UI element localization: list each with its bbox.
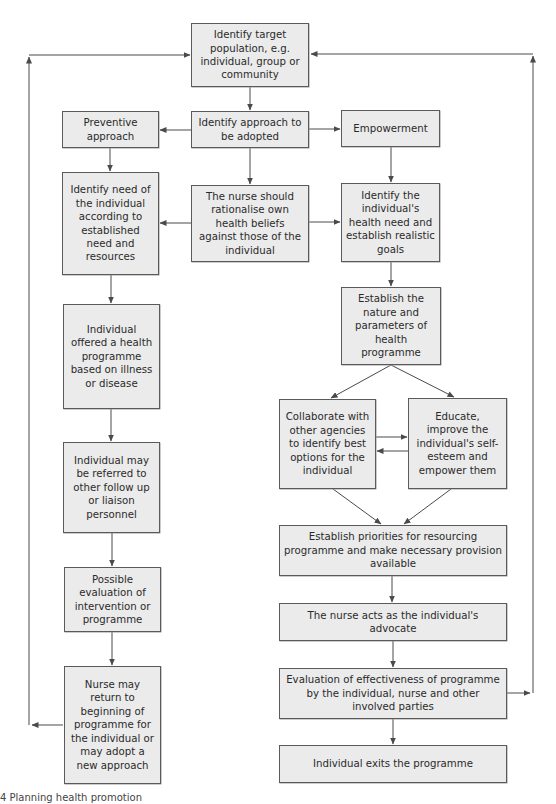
- node-advocate: The nurse acts as the individual's advoc…: [279, 603, 507, 641]
- node-establish-nature: Establish the nature and parameters of h…: [341, 287, 441, 365]
- arrow-educate-to-priorities: [404, 489, 451, 524]
- node-collaborate: Collaborate with other agencies to ident…: [279, 399, 376, 489]
- node-empowerment: Empowerment: [341, 110, 440, 147]
- node-target-population: Identify target population, e.g. individ…: [191, 23, 309, 87]
- arrow-nature-to-educate: [391, 365, 454, 397]
- node-identify-need: Identify need of the individual accordin…: [62, 172, 159, 275]
- arrow-collaborate-to-priorities: [333, 489, 381, 524]
- figure-caption: 4 Planning health promotion: [0, 792, 142, 803]
- node-offered-programme: Individual offered a health programme ba…: [63, 304, 160, 409]
- node-possible-evaluation: Possible evaluation of intervention or p…: [64, 567, 161, 632]
- node-referred: Individual may be referred to other foll…: [63, 442, 160, 533]
- node-evaluation-effectiveness: Evaluation of effectiveness of programme…: [279, 668, 507, 719]
- node-educate: Educate, improve the individual's self-e…: [408, 398, 507, 489]
- node-identify-health-need: Identify the individual's health need an…: [341, 183, 440, 262]
- node-identify-approach: Identify approach to be adopted: [191, 111, 309, 148]
- node-exits: Individual exits the programme: [279, 745, 507, 783]
- node-priorities: Establish priorities for resourcing prog…: [279, 525, 507, 576]
- flowchart: Identify target population, e.g. individ…: [0, 0, 556, 804]
- node-preventive-approach: Preventive approach: [62, 111, 159, 148]
- node-nurse-return: Nurse may return to beginning of program…: [64, 666, 161, 784]
- node-nurse-rationalise: The nurse should rationalise own health …: [191, 185, 309, 262]
- arrow-nature-to-collaborate: [331, 365, 391, 398]
